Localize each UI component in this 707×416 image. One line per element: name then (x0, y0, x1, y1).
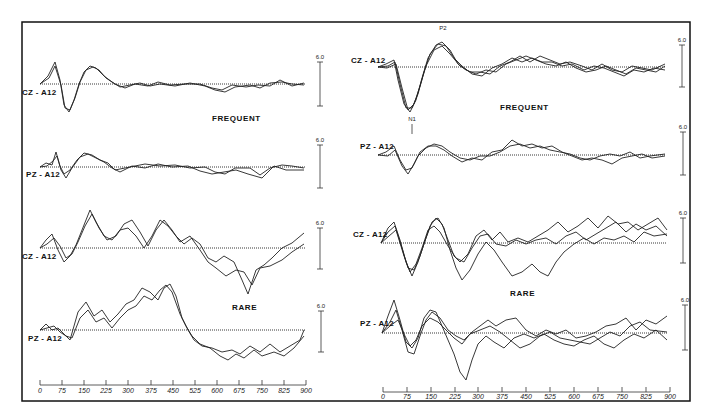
right-x-tick: 525 (544, 393, 556, 400)
right-x-tick: 300 (472, 393, 484, 400)
right-x-tick: 675 (592, 393, 604, 400)
left-baselines (40, 84, 306, 330)
right-pz-rare-wave-1 (382, 300, 667, 380)
left-x-tick: 675 (233, 387, 245, 394)
right-x-tick: 225 (449, 393, 461, 400)
right-x-tick: 750 (616, 393, 628, 400)
scale-label: 6.0 (679, 210, 687, 216)
left-cz-rare-label: CZ - A12 (22, 252, 57, 261)
right-x-tick: 75 (403, 393, 411, 400)
left-x-tick: 0 (38, 387, 42, 394)
right-x-tick: 600 (568, 393, 580, 400)
scale-label: 6.0 (316, 137, 324, 143)
right-pz-frequent-wave-1 (378, 144, 665, 170)
left-x-tick: 225 (100, 387, 112, 394)
left-frequent-label: FREQUENT (212, 114, 261, 123)
left-cz-rare-wave-2 (40, 214, 304, 285)
right-pz-rare-label: PZ - A12 (360, 319, 394, 328)
scale-label: 6.0 (316, 220, 324, 226)
right-pz-frequent-wave-2 (378, 140, 665, 174)
left-x-tick: 300 (122, 387, 134, 394)
left-x-tick: 600 (211, 387, 223, 394)
left-x-tick: 75 (58, 387, 66, 394)
right-axis-ticks (383, 387, 670, 392)
right-x-tick: 150 (425, 393, 437, 400)
left-cz-frequent-label: CZ - A12 (22, 88, 57, 97)
scale-bars (317, 45, 688, 352)
left-x-tick: 825 (278, 387, 290, 394)
left-rare-label: RARE (232, 303, 257, 312)
n1-peak-label: N1 (408, 116, 416, 122)
right-rare-label: RARE (510, 289, 535, 298)
right-cz-frequent-wave-3 (378, 46, 665, 110)
left-x-tick: 525 (189, 387, 201, 394)
right-frequent-label: FREQUENT (500, 103, 549, 112)
left-x-tick: 375 (145, 387, 157, 394)
left-pz-frequent-label: PZ - A12 (26, 170, 60, 179)
left-axis-ticks (40, 380, 306, 385)
right-cz-frequent-label: CZ - A12 (351, 56, 386, 65)
right-pz-frequent-label: PZ - A12 (360, 142, 394, 151)
right-x-tick: 450 (520, 393, 532, 400)
left-x-tick: 450 (167, 387, 179, 394)
left-cz-frequent-wave-2 (40, 66, 304, 110)
right-x-tick: 0 (381, 393, 385, 400)
right-cz-frequent-wave-2 (378, 44, 665, 108)
left-x-tick: 750 (256, 387, 268, 394)
p2-peak-label: P2 (439, 25, 446, 31)
right-cz-rare-label: CZ - A12 (353, 230, 388, 239)
left-x-tick: 900 (300, 387, 312, 394)
left-pz-frequent-wave-1 (40, 152, 304, 175)
left-x-tick: 150 (78, 387, 90, 394)
scale-label: 6.0 (316, 54, 324, 60)
scale-label: 6.0 (678, 37, 686, 43)
right-cz-rare-wave-3 (381, 222, 667, 272)
left-cz-rare-wave-1 (40, 210, 304, 294)
right-cz-frequent-wave-1 (378, 42, 665, 112)
right-cz-rare-wave-1 (381, 216, 667, 276)
left-cz-frequent-wave-1 (40, 62, 304, 112)
left-pz-rare-label: PZ - A12 (28, 334, 62, 343)
right-x-tick: 375 (496, 393, 508, 400)
right-cz-rare-wave-2 (381, 218, 667, 280)
scale-label: 6.0 (317, 303, 325, 309)
scale-label: 6.0 (679, 124, 687, 130)
scale-label: 6.0 (681, 297, 689, 303)
left-pz-frequent-wave-2 (40, 154, 304, 178)
right-x-tick: 900 (664, 393, 676, 400)
right-x-tick: 825 (640, 393, 652, 400)
